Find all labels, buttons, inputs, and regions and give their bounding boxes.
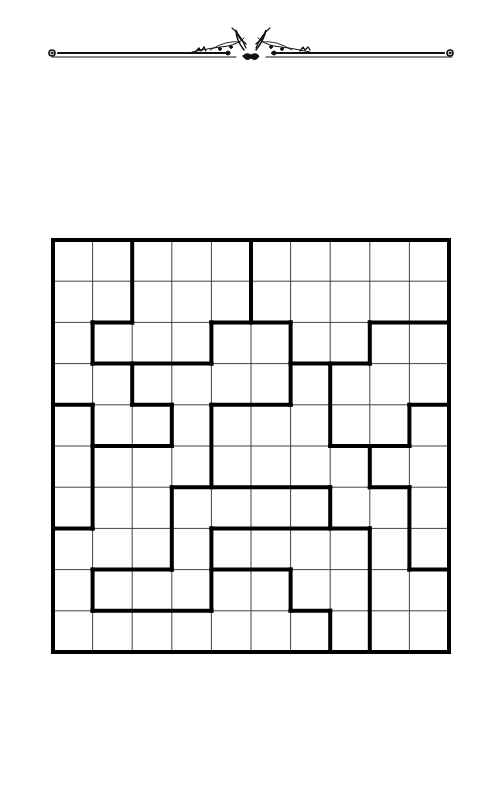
grid-cell[interactable] <box>370 446 410 487</box>
grid-cell[interactable] <box>172 446 212 487</box>
grid-cell[interactable] <box>53 405 93 446</box>
grid-cell[interactable] <box>211 528 251 569</box>
grid-cell[interactable] <box>93 405 133 446</box>
grid-cell[interactable] <box>291 322 331 363</box>
grid-cell[interactable] <box>93 281 133 322</box>
grid-cell[interactable] <box>172 487 212 528</box>
grid-cell[interactable] <box>409 405 449 446</box>
grid-cell[interactable] <box>251 487 291 528</box>
grid-cell[interactable] <box>291 281 331 322</box>
grid-cell[interactable] <box>330 322 370 363</box>
grid-cell[interactable] <box>172 322 212 363</box>
grid-cell[interactable] <box>251 405 291 446</box>
grid-cell[interactable] <box>211 240 251 281</box>
grid-cell[interactable] <box>53 570 93 611</box>
grid-cell[interactable] <box>291 405 331 446</box>
grid-cell[interactable] <box>93 528 133 569</box>
grid-cell[interactable] <box>172 240 212 281</box>
grid-cell[interactable] <box>211 364 251 405</box>
grid-cell[interactable] <box>132 487 172 528</box>
grid-cell[interactable] <box>291 611 331 652</box>
grid-cell[interactable] <box>93 322 133 363</box>
grid-cell[interactable] <box>132 322 172 363</box>
grid-cell[interactable] <box>132 446 172 487</box>
grid-cell[interactable] <box>211 322 251 363</box>
grid-cell[interactable] <box>409 611 449 652</box>
grid-cell[interactable] <box>330 240 370 281</box>
grid-cell[interactable] <box>291 446 331 487</box>
grid-cell[interactable] <box>370 240 410 281</box>
grid-cell[interactable] <box>291 487 331 528</box>
grid-cell[interactable] <box>93 446 133 487</box>
grid-cell[interactable] <box>93 364 133 405</box>
grid-cell[interactable] <box>409 487 449 528</box>
grid-cell[interactable] <box>251 240 291 281</box>
grid-cell[interactable] <box>251 364 291 405</box>
grid-cell[interactable] <box>370 322 410 363</box>
grid-cell[interactable] <box>93 240 133 281</box>
grid-cell[interactable] <box>330 364 370 405</box>
grid-cell[interactable] <box>330 570 370 611</box>
grid-cell[interactable] <box>53 322 93 363</box>
grid-cell[interactable] <box>53 611 93 652</box>
grid-cell[interactable] <box>211 405 251 446</box>
grid-cell[interactable] <box>330 487 370 528</box>
grid-cell[interactable] <box>53 364 93 405</box>
grid-cell[interactable] <box>132 405 172 446</box>
grid-cell[interactable] <box>211 487 251 528</box>
grid-cell[interactable] <box>330 446 370 487</box>
grid-cell[interactable] <box>53 487 93 528</box>
grid-cell[interactable] <box>53 240 93 281</box>
grid-cell[interactable] <box>251 322 291 363</box>
grid-cell[interactable] <box>409 322 449 363</box>
grid-cell[interactable] <box>211 570 251 611</box>
grid-cell[interactable] <box>93 611 133 652</box>
grid-cell[interactable] <box>251 570 291 611</box>
grid-cell[interactable] <box>211 281 251 322</box>
grid-cell[interactable] <box>93 487 133 528</box>
grid-cell[interactable] <box>172 611 212 652</box>
grid-cell[interactable] <box>53 528 93 569</box>
grid-cell[interactable] <box>172 281 212 322</box>
grid-cell[interactable] <box>370 570 410 611</box>
grid-cell[interactable] <box>370 528 410 569</box>
grid-cell[interactable] <box>330 528 370 569</box>
grid-cell[interactable] <box>93 570 133 611</box>
grid-cell[interactable] <box>409 281 449 322</box>
grid-cell[interactable] <box>172 405 212 446</box>
grid-cell[interactable] <box>211 611 251 652</box>
grid-cell[interactable] <box>172 528 212 569</box>
grid-cell[interactable] <box>53 446 93 487</box>
grid-cell[interactable] <box>370 611 410 652</box>
grid-cell[interactable] <box>370 364 410 405</box>
grid-cell[interactable] <box>251 528 291 569</box>
grid-cell[interactable] <box>251 446 291 487</box>
grid-cell[interactable] <box>291 364 331 405</box>
grid-cell[interactable] <box>132 281 172 322</box>
grid-cell[interactable] <box>409 446 449 487</box>
grid-cell[interactable] <box>291 570 331 611</box>
grid-cell[interactable] <box>211 446 251 487</box>
grid-cell[interactable] <box>291 240 331 281</box>
grid-cell[interactable] <box>409 364 449 405</box>
grid-cell[interactable] <box>409 240 449 281</box>
grid-cell[interactable] <box>251 611 291 652</box>
grid-cell[interactable] <box>132 611 172 652</box>
grid-cell[interactable] <box>132 570 172 611</box>
grid-cell[interactable] <box>409 570 449 611</box>
grid-cell[interactable] <box>132 528 172 569</box>
grid-cell[interactable] <box>409 528 449 569</box>
grid-cell[interactable] <box>330 405 370 446</box>
grid-cell[interactable] <box>330 611 370 652</box>
grid-cell[interactable] <box>132 240 172 281</box>
grid-cell[interactable] <box>172 364 212 405</box>
grid-cell[interactable] <box>132 364 172 405</box>
grid-cell[interactable] <box>53 281 93 322</box>
grid-cell[interactable] <box>330 281 370 322</box>
grid-cell[interactable] <box>370 487 410 528</box>
grid-cell[interactable] <box>370 405 410 446</box>
grid-cell[interactable] <box>251 281 291 322</box>
grid-cell[interactable] <box>172 570 212 611</box>
grid-cell[interactable] <box>291 528 331 569</box>
grid-cell[interactable] <box>370 281 410 322</box>
